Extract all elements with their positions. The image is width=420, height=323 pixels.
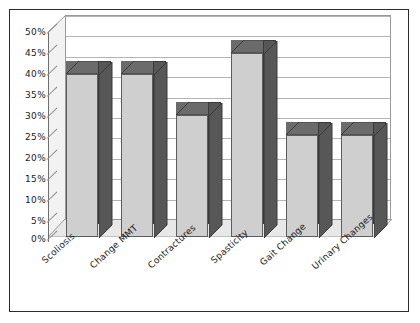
plot-area: 50% 45% 40% 35% 30% 25% 20% 15% 10% 5% 0… <box>10 10 410 313</box>
x-tick-label-contractures: Contractures <box>146 222 198 270</box>
chart-frame: 50% 45% 40% 35% 30% 25% 20% 15% 10% 5% 0… <box>9 9 409 312</box>
chart-screenshot: 50% 45% 40% 35% 30% 25% 20% 15% 10% 5% 0… <box>0 0 420 323</box>
x-tick-label-urinary-changes: Urinary Changes <box>310 212 375 272</box>
x-tick-label-spasticity: Spasticity <box>209 227 250 265</box>
x-tick-label-scoliosis: Scoliosis <box>40 231 77 265</box>
x-tick-label-gait-change: Gait Change <box>258 221 308 267</box>
x-axis-labels: Scoliosis Change MMT Contractures Spasti… <box>10 10 410 313</box>
x-tick-label-change-mmt: Change MMT <box>88 223 140 271</box>
